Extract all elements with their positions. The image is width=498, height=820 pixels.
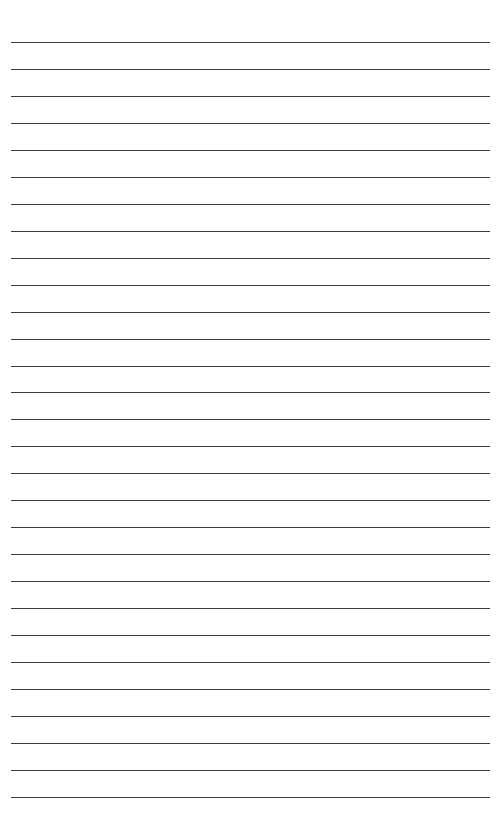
ruled-line — [11, 42, 490, 43]
ruled-line — [11, 96, 490, 97]
ruled-line — [11, 312, 490, 313]
ruled-line — [11, 285, 490, 286]
ruled-line — [11, 716, 490, 717]
ruled-line — [11, 339, 490, 340]
ruled-line — [11, 150, 490, 151]
ruled-line — [11, 446, 490, 447]
ruled-line — [11, 500, 490, 501]
ruled-line — [11, 204, 490, 205]
lined-paper-page — [0, 0, 498, 820]
ruled-line — [11, 473, 490, 474]
ruled-line — [11, 177, 490, 178]
ruled-line — [11, 258, 490, 259]
ruled-line — [11, 743, 490, 744]
ruled-line — [11, 69, 490, 70]
ruled-line — [11, 662, 490, 663]
ruled-line — [11, 770, 490, 771]
ruled-line — [11, 581, 490, 582]
ruled-line — [11, 231, 490, 232]
ruled-line — [11, 635, 490, 636]
ruled-line — [11, 123, 490, 124]
ruled-line — [11, 608, 490, 609]
ruled-line — [11, 392, 490, 393]
ruled-line — [11, 797, 490, 798]
ruled-line — [11, 366, 490, 367]
ruled-line — [11, 689, 490, 690]
ruled-line — [11, 554, 490, 555]
ruled-line — [11, 527, 490, 528]
ruled-line — [11, 419, 490, 420]
